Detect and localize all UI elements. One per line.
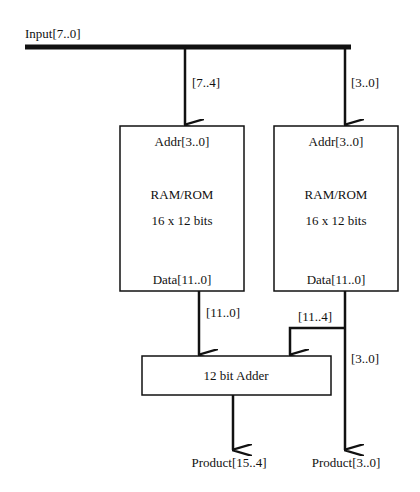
- tap-low-label: [3..0]: [351, 76, 379, 89]
- rom-left-addr: Addr[3..0]: [155, 135, 210, 148]
- rom-left-data: Data[11..0]: [153, 273, 212, 286]
- adder-label: 12 bit Adder: [204, 369, 269, 382]
- right-high-wire-label: [11..4]: [298, 310, 332, 323]
- output-low-label: Product[3..0]: [312, 456, 381, 469]
- rom-right-addr: Addr[3..0]: [309, 135, 364, 148]
- rom-left-size: 16 x 12 bits: [151, 214, 212, 227]
- left-data-wire-label: [11..0]: [206, 306, 240, 319]
- rom-right-size: 16 x 12 bits: [305, 214, 366, 227]
- right-low-wire-label: [3..0]: [351, 352, 379, 365]
- rom-right-data: Data[11..0]: [307, 273, 366, 286]
- rom-left-type: RAM/ROM: [151, 188, 214, 201]
- block-diagram-lines: [0, 0, 420, 492]
- tap-high-label: [7..4]: [192, 76, 220, 89]
- rom-right-box: [274, 126, 398, 291]
- right-high-branch: [290, 328, 345, 355]
- rom-right-type: RAM/ROM: [305, 188, 368, 201]
- input-bus-label: Input[7..0]: [25, 27, 81, 40]
- output-high-label: Product[15..4]: [191, 456, 266, 469]
- rom-left-box: [120, 126, 244, 291]
